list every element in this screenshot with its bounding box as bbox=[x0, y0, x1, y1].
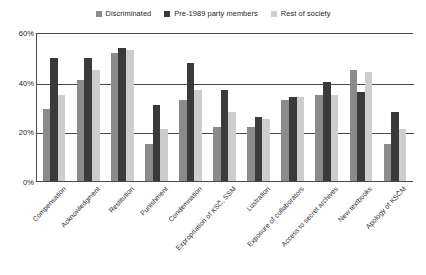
bar bbox=[213, 127, 221, 181]
legend-entry: Discriminated bbox=[96, 9, 152, 18]
x-axis-tick-label: Condemnation bbox=[167, 185, 203, 223]
x-axis-tick-label: Expropriation of KSČ, SSM bbox=[174, 185, 237, 251]
x-axis-tick-label: Compensation bbox=[31, 185, 67, 223]
bar bbox=[289, 97, 297, 181]
legend-label: Pre-1989 party members bbox=[174, 9, 258, 18]
x-axis-tick-label: Acknowledgment bbox=[59, 185, 100, 229]
y-axis-tick-label: 20% bbox=[2, 128, 34, 137]
bar bbox=[228, 112, 236, 181]
bar-chart: DiscriminatedPre-1989 party membersRest … bbox=[0, 0, 426, 275]
x-axis-tick-label: Punishment bbox=[139, 185, 169, 217]
legend-label: Rest of society bbox=[281, 9, 331, 18]
bar-group bbox=[173, 34, 207, 181]
bar bbox=[118, 48, 126, 181]
bar bbox=[365, 72, 373, 181]
legend-entry: Rest of society bbox=[271, 9, 331, 18]
bar bbox=[92, 70, 100, 181]
bar bbox=[281, 100, 289, 181]
bar bbox=[297, 97, 305, 181]
bar bbox=[323, 82, 331, 181]
bar-group bbox=[105, 34, 139, 181]
x-axis-tick-label: New textbooks bbox=[337, 185, 373, 223]
bar bbox=[145, 144, 153, 181]
bar bbox=[221, 90, 229, 181]
legend-swatch-icon bbox=[164, 11, 170, 17]
bar bbox=[391, 112, 399, 181]
bar-group bbox=[378, 34, 412, 181]
x-axis-labels: CompensationAcknowledgmentRestitutionPun… bbox=[37, 183, 412, 275]
bar bbox=[384, 144, 392, 181]
bar-group bbox=[276, 34, 310, 181]
bar-group bbox=[71, 34, 105, 181]
bar-group bbox=[207, 34, 241, 181]
bar bbox=[350, 70, 358, 181]
bar bbox=[357, 92, 365, 181]
bar bbox=[315, 95, 323, 181]
bar-groups bbox=[37, 34, 412, 181]
x-axis-tick-label: Exposure of collaborators bbox=[246, 185, 305, 248]
bar bbox=[331, 95, 339, 181]
bar bbox=[153, 105, 161, 181]
bar bbox=[84, 58, 92, 181]
bar bbox=[58, 95, 66, 181]
legend-swatch-icon bbox=[271, 11, 277, 17]
bar bbox=[43, 109, 51, 181]
y-axis-tick-label: 60% bbox=[2, 29, 34, 38]
bar-group bbox=[344, 34, 378, 181]
bar bbox=[50, 58, 58, 181]
bar bbox=[194, 90, 202, 181]
x-axis-tick-label: Restitution bbox=[107, 185, 135, 214]
bar bbox=[179, 100, 187, 181]
x-axis-tick-label: Lustration bbox=[245, 185, 271, 212]
bar bbox=[77, 80, 85, 181]
legend-entry: Pre-1989 party members bbox=[164, 9, 258, 18]
legend-swatch-icon bbox=[96, 11, 102, 17]
y-axis-tick-label: 40% bbox=[2, 78, 34, 87]
bar bbox=[247, 127, 255, 181]
bar bbox=[111, 53, 119, 181]
bar-group bbox=[310, 34, 344, 181]
bar bbox=[160, 129, 168, 181]
y-axis-tick-label: 0% bbox=[2, 178, 34, 187]
bar bbox=[187, 63, 195, 181]
bar bbox=[262, 119, 270, 181]
legend-label: Discriminated bbox=[106, 9, 152, 18]
bar bbox=[399, 129, 407, 181]
bar bbox=[126, 50, 134, 181]
bar-group bbox=[139, 34, 173, 181]
bar bbox=[255, 117, 263, 181]
chart-legend: DiscriminatedPre-1989 party membersRest … bbox=[0, 9, 426, 18]
bar-group bbox=[37, 34, 71, 181]
bar-group bbox=[242, 34, 276, 181]
x-axis-tick-label: Access to secret archives bbox=[280, 185, 339, 248]
